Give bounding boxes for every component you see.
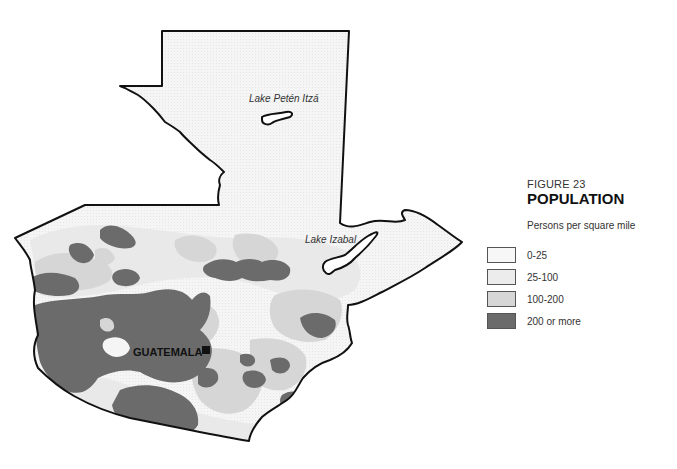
- legend-item-label: 200 or more: [527, 316, 581, 327]
- legend-item-label: 25-100: [527, 272, 558, 283]
- capital-marker-icon: [202, 346, 210, 354]
- swatch-25-100: [487, 269, 516, 285]
- legend-item: 0-25: [487, 244, 581, 266]
- legend-item-label: 0-25: [527, 250, 547, 261]
- swatch-200-or-more: [487, 313, 516, 329]
- legend-subtitle: Persons per square mile: [527, 220, 677, 232]
- population-map: Lake Petén Itzá Lake Izabal GUATEMALA: [0, 0, 677, 469]
- capital-label: GUATEMALA: [133, 346, 203, 358]
- figure-title: POPULATION: [527, 190, 677, 207]
- lake-peten-label: Lake Petén Itzá: [249, 93, 319, 104]
- legend-item: 100-200: [487, 288, 581, 310]
- legend-item-label: 100-200: [527, 294, 564, 305]
- figure-number: FIGURE 23: [527, 178, 677, 190]
- legend-item: 200 or more: [487, 310, 581, 332]
- legend-item: 25-100: [487, 266, 581, 288]
- lake-izabal-label: Lake Izabal: [305, 234, 357, 245]
- swatch-0-25: [487, 247, 516, 263]
- swatch-100-200: [487, 291, 516, 307]
- legend-items: 0-25 25-100 100-200 200 or more: [487, 244, 581, 332]
- legend: FIGURE 23 POPULATION Persons per square …: [527, 178, 677, 232]
